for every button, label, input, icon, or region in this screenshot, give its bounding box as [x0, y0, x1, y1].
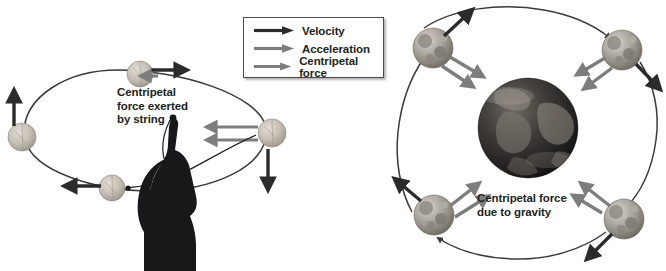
velocity-arrow-moon-bottom-right — [588, 234, 612, 258]
acceleration-arrow-moon-bottom-left — [450, 184, 478, 206]
arrow-right-icon — [252, 43, 296, 54]
legend-item-velocity: Velocity — [252, 22, 345, 39]
velocity-arrow-moon-top-left — [444, 11, 471, 36]
person-silhouette — [138, 118, 197, 271]
arrow-right-icon — [252, 25, 296, 36]
ball-right — [258, 119, 286, 147]
legend-label-velocity: Velocity — [302, 25, 345, 37]
velocity-arrow-moon-bottom-left — [396, 180, 421, 201]
legend-item-centripetal-force: Centripetal force — [252, 58, 383, 75]
ball-top — [127, 61, 153, 87]
velocity-arrow-moon-top-right — [636, 64, 659, 88]
figure-canvas: Velocity Acceleration Centripetal force … — [0, 0, 666, 271]
earth-sphere — [478, 78, 578, 178]
caption-gravity-force: Centripetal force due to gravity — [477, 192, 567, 219]
legend-box: Velocity Acceleration Centripetal force — [243, 17, 384, 78]
ball-bottom — [99, 175, 125, 201]
caption-string-force: Centripetal force exerted by string — [117, 86, 188, 127]
acceleration-arrow-moon-top-right — [578, 58, 605, 74]
legend-label-acceleration: Acceleration — [302, 43, 370, 55]
force-arrow-moon-top-right — [585, 68, 612, 88]
legend-label-centripetal-force: Centripetal force — [299, 55, 383, 79]
arrow-right-icon — [252, 61, 293, 72]
ball-left — [8, 123, 36, 151]
string-attach-point — [125, 185, 130, 190]
